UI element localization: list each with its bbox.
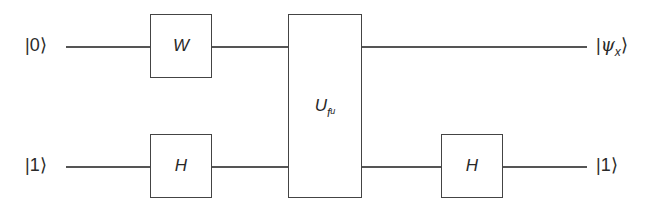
gate-h-left-label: H [175,156,187,176]
wire-q1-seg4 [503,166,587,168]
wire-q1-seg1 [66,166,150,168]
gate-w-label: W [173,36,189,56]
gate-h-left: H [150,134,212,198]
wire-q0-seg3 [362,46,587,48]
gate-h-right-label: H [466,156,478,176]
gate-h-right: H [441,134,503,198]
output-ket-q1: |1⟩ [596,154,618,176]
wire-q1-seg3 [362,166,441,168]
output-ket-q0: |ψx⟩ [596,34,628,59]
input-ket-q1: |1⟩ [25,154,47,176]
wire-q1-seg2 [212,166,288,168]
input-ket-q0: |0⟩ [25,34,47,56]
gate-u-label: Ufu [315,96,336,116]
wire-q0-seg2 [212,46,288,48]
wire-q0-seg1 [66,46,150,48]
gate-w: W [150,14,212,78]
gate-u-fu: Ufu [288,14,362,198]
